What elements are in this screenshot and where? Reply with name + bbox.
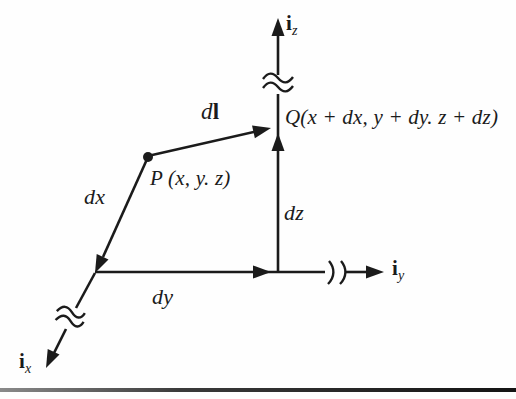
- dy-label: dy: [152, 286, 173, 308]
- dl-l: l: [213, 99, 220, 124]
- dx-label: dx: [84, 186, 105, 208]
- dl-vector: [150, 122, 272, 156]
- dl-d: d: [201, 99, 213, 124]
- unit-vector-sub-x: x: [25, 361, 31, 376]
- x-axis-line-upper: [76, 273, 95, 308]
- y-axis: [278, 261, 384, 284]
- point-p-text: P (x, y. z): [150, 166, 231, 190]
- z-axis-break-icon: [263, 74, 293, 92]
- page-rule: [0, 388, 516, 392]
- x-axis-break-icon: [55, 306, 85, 327]
- dz-label: dz: [284, 202, 304, 224]
- dl-label: dl: [201, 100, 219, 123]
- unit-vector-sub-y: y: [398, 268, 404, 283]
- x-axis-line-lower: [54, 329, 66, 353]
- y-axis-break-icon: [328, 261, 345, 284]
- dl-line: [150, 132, 256, 156]
- figure-canvas: iz Q(x + dx, y + dy. z + dz) dl P (x, y.…: [0, 0, 516, 399]
- point-q-label: Q(x + dx, y + dy. z + dz): [285, 107, 498, 128]
- dy-text: dy: [152, 284, 173, 309]
- dl-arrowhead: [252, 122, 272, 139]
- dy-arrowhead: [253, 266, 271, 279]
- z-axis-label: iz: [286, 13, 298, 38]
- dx-vector: [89, 157, 148, 276]
- dz-text: dz: [284, 200, 304, 225]
- y-axis-label: iy: [392, 258, 404, 283]
- dx-text: dx: [84, 184, 105, 209]
- x-axis-label: ix: [19, 351, 31, 376]
- dz-arrowhead: [272, 133, 285, 151]
- unit-vector-sub-z: z: [292, 23, 298, 38]
- dy-vector: [95, 266, 278, 279]
- z-axis-arrowhead: [272, 18, 285, 36]
- point-p-label: P (x, y. z): [150, 168, 231, 189]
- diagram-artwork: [0, 0, 516, 399]
- point-q-text: Q(x + dx, y + dy. z + dz): [285, 105, 498, 129]
- y-axis-arrowhead: [366, 266, 384, 279]
- dx-line: [103, 157, 148, 257]
- x-axis-arrowhead: [40, 349, 59, 371]
- x-axis: [40, 273, 95, 371]
